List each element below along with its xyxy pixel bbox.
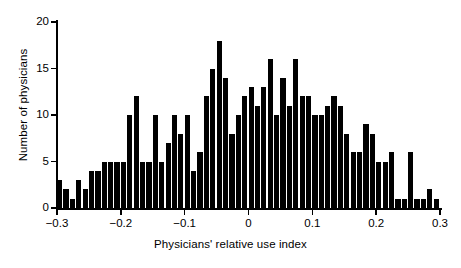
x-axis-tick-mark [248, 209, 250, 215]
histogram-bar [89, 171, 94, 208]
histogram-bar [146, 162, 151, 209]
x-axis-tick-label: 0.2 [356, 217, 396, 229]
x-axis-tick-mark [439, 209, 441, 215]
histogram-bar [191, 171, 196, 208]
histogram-bar [357, 152, 362, 208]
x-axis-tick-label: −0.1 [165, 217, 205, 229]
x-axis-tick-mark [375, 209, 377, 215]
histogram-bar [159, 162, 164, 209]
x-axis-title: Physicians' relative use index [0, 238, 461, 251]
y-axis-tick-mark [51, 114, 57, 116]
y-axis-tick-mark [51, 21, 57, 23]
x-axis-tick-mark [56, 209, 58, 215]
y-axis-tick-label: 0 [5, 202, 49, 214]
histogram-bar [280, 78, 285, 208]
histogram-bar [363, 124, 368, 208]
histogram-bar [76, 180, 81, 208]
x-axis-tick-label: 0 [229, 217, 269, 229]
x-axis-tick-label: −0.3 [37, 217, 77, 229]
histogram-bar [108, 162, 113, 209]
histogram-bar [319, 115, 324, 208]
histogram-bar [395, 199, 400, 208]
histogram-bar [121, 162, 126, 209]
histogram-bar [185, 115, 190, 208]
histogram-bar [236, 115, 241, 208]
histogram-bar [351, 152, 356, 208]
histogram-bar [414, 199, 419, 208]
y-axis-tick-label: 20 [5, 16, 49, 28]
histogram-bar [204, 96, 209, 208]
histogram-bar [300, 96, 305, 208]
histogram-bar [427, 189, 432, 208]
histogram-bar [338, 106, 343, 208]
histogram-bar [134, 96, 139, 208]
y-axis-tick-mark [51, 161, 57, 163]
histogram-bar [223, 78, 228, 208]
histogram-bar [210, 69, 215, 209]
histogram-bar [306, 96, 311, 208]
histogram-bar [287, 106, 292, 208]
histogram-bar [63, 189, 68, 208]
y-axis-tick-label: 10 [5, 109, 49, 121]
histogram-bar [255, 106, 260, 208]
histogram-bar [172, 115, 177, 208]
y-axis-tick-mark [51, 68, 57, 70]
histogram-bar [153, 115, 158, 208]
x-axis-tick-mark [120, 209, 122, 215]
histogram-bar [325, 106, 330, 208]
histogram-bar [434, 199, 439, 208]
histogram-bar [344, 134, 349, 208]
histogram-figure: Number of physicians 05101520 Physicians… [0, 0, 461, 268]
histogram-bar [178, 134, 183, 208]
histogram-bar [140, 162, 145, 209]
histogram-bar [389, 152, 394, 208]
histogram-bar [242, 96, 247, 208]
histogram-bar [293, 59, 298, 208]
histogram-bar [312, 115, 317, 208]
y-axis-tick-label: 15 [5, 63, 49, 75]
histogram-bar [274, 115, 279, 208]
x-axis-tick-label: 0.1 [292, 217, 332, 229]
histogram-bar [421, 199, 426, 208]
histogram-bar [217, 41, 222, 208]
x-axis-tick-label: 0.3 [420, 217, 460, 229]
histogram-bar [402, 199, 407, 208]
histogram-bar [331, 96, 336, 208]
histogram-bar [95, 171, 100, 208]
histogram-bar [114, 162, 119, 209]
plot-area [57, 22, 440, 208]
histogram-bar [70, 199, 75, 208]
histogram-bar [166, 143, 171, 208]
histogram-bar [370, 134, 375, 208]
x-axis-tick-label: −0.2 [101, 217, 141, 229]
histogram-bar [83, 189, 88, 208]
x-axis-tick-mark [184, 209, 186, 215]
y-axis-tick-label: 5 [5, 156, 49, 168]
histogram-bar [102, 162, 107, 209]
histogram-bar [268, 59, 273, 208]
histogram-bar [261, 87, 266, 208]
histogram-bar [197, 152, 202, 208]
histogram-bar [57, 180, 62, 208]
x-axis-tick-mark [312, 209, 314, 215]
histogram-bar [376, 162, 381, 209]
histogram-bar [229, 134, 234, 208]
histogram-bar [249, 87, 254, 208]
histogram-bar [383, 162, 388, 209]
histogram-bar [127, 115, 132, 208]
histogram-bar [408, 152, 413, 208]
